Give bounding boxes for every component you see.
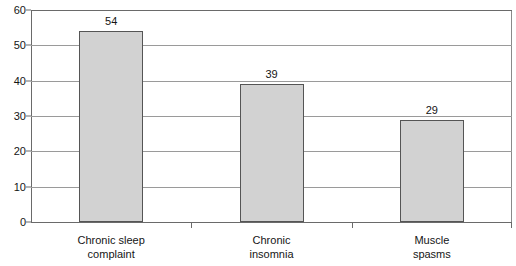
bar-value-label: 54 [79,16,143,27]
bar [240,84,304,222]
y-tick-label-30: 30 [2,111,26,122]
x-tick-mark [191,222,192,228]
bar-chart: 0102030405060 54Chronic sleep complaint3… [0,0,516,266]
bar [400,120,464,222]
y-tick-label-0: 0 [2,217,26,228]
x-axis-category-label: Muscle spasms [362,233,502,261]
plot-area [31,10,512,222]
x-axis-category-label: Chronic sleep complaint [41,233,181,261]
y-tick-label-60: 60 [2,5,26,16]
bar-value-label: 29 [400,105,464,116]
x-axis-category-label: Chronic insomnia [202,233,342,261]
x-tick-mark [352,222,353,228]
y-tick-label-10: 10 [2,181,26,192]
gridline-60 [31,10,512,11]
y-axis: 0102030405060 [0,0,26,266]
gridline-0 [31,222,512,223]
y-tick-label-20: 20 [2,146,26,157]
bar [79,31,143,222]
x-tick-mark [511,222,512,228]
y-tick-label-40: 40 [2,75,26,86]
bar-value-label: 39 [240,69,304,80]
y-tick-label-50: 50 [2,40,26,51]
